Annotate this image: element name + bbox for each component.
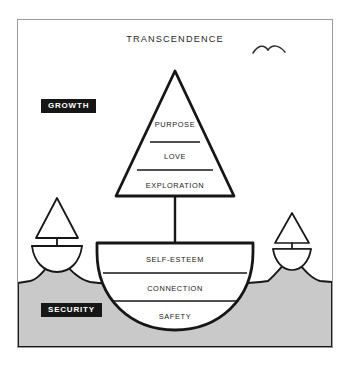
diagram-title: TRANSCENDENCE [126,34,224,44]
sail-outline [116,71,234,196]
hull-tier-label-connection: CONNECTION [147,284,203,293]
sail-tier-label-love: LOVE [164,152,186,161]
growth-sail [116,71,234,196]
diagram-canvas: TRANSCENDENCE PURPOSE LOVE EXPLORATION S… [0,0,350,370]
sail-tier-label-purpose: PURPOSE [155,120,195,129]
hull-tier-label-safety: SAFETY [159,312,191,321]
seagull-icon [253,46,285,53]
small-sailboat-icon-left [32,198,82,272]
badge-growth: GROWTH [41,99,96,113]
small-sailboat-icon-right [273,213,311,270]
hull-tier-label-self-esteem: SELF-ESTEEM [146,255,204,264]
badge-security: SECURITY [41,303,102,317]
sail-tier-label-exploration: EXPLORATION [146,181,205,190]
